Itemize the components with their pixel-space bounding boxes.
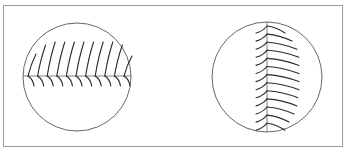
barb-right [267, 58, 299, 65]
barb-upper [47, 42, 55, 76]
barb-upper [28, 54, 36, 76]
barb-right [267, 67, 299, 74]
diagram-canvas [0, 0, 347, 153]
right-barbs-group [256, 26, 299, 130]
barb-lower [95, 76, 101, 86]
barb-upper [114, 45, 122, 76]
barb-upper [76, 42, 84, 76]
barb-left [256, 107, 267, 114]
barb-right [267, 107, 294, 114]
barb-right [267, 99, 297, 106]
barb-upper [105, 42, 113, 76]
barb-left [256, 83, 267, 90]
barb-left [256, 123, 267, 130]
barb-right [267, 83, 299, 90]
barb-left [256, 99, 267, 106]
barb-right [267, 75, 299, 82]
barb-right [267, 91, 298, 98]
barb-right [267, 50, 299, 57]
barb-left [256, 42, 267, 49]
barb-left [256, 50, 267, 57]
barb-lower [105, 76, 111, 86]
barb-right [267, 42, 297, 49]
barb-lower [114, 76, 120, 86]
barb-left [256, 26, 267, 33]
barb-upper [86, 42, 94, 76]
barb-lower [47, 76, 53, 86]
right-circle-panel [212, 22, 322, 132]
barb-left [256, 115, 267, 122]
barb-lower [124, 76, 130, 86]
barb-upper [66, 42, 74, 76]
barb-left [256, 67, 267, 74]
barb-lower [28, 76, 34, 86]
barb-upper [57, 42, 65, 76]
barb-lower [76, 76, 82, 86]
barb-lower [66, 76, 72, 86]
left-barbs-group [28, 42, 132, 86]
barb-lower [38, 76, 44, 86]
barb-left [256, 34, 267, 41]
barb-right [267, 34, 292, 41]
barb-right [267, 26, 285, 33]
barb-lower [57, 76, 63, 86]
barb-left [256, 75, 267, 82]
barb-right [267, 123, 285, 130]
left-circle-panel [23, 23, 132, 131]
barb-upper [38, 45, 46, 76]
barb-left [256, 91, 267, 98]
barb-right [267, 115, 289, 122]
barb-left [256, 58, 267, 65]
barb-lower [86, 76, 92, 86]
barb-upper [95, 42, 103, 76]
